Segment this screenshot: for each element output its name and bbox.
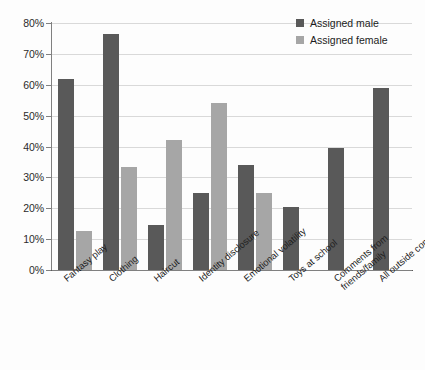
bar <box>76 231 92 270</box>
bar <box>148 225 164 270</box>
legend-item[interactable]: Assigned female <box>296 33 388 46</box>
y-tick-mark <box>46 208 51 209</box>
bar <box>373 88 389 270</box>
legend-item[interactable]: Assigned male <box>296 16 388 29</box>
bar <box>256 193 272 270</box>
y-axis-tick-label: 50% <box>4 111 44 122</box>
y-axis-tick-label: 40% <box>4 142 44 153</box>
y-axis-tick-label: 80% <box>4 18 44 29</box>
bar <box>283 207 299 270</box>
bar <box>58 79 74 270</box>
y-axis-tick-label: 70% <box>4 49 44 60</box>
y-axis-tick-label: 30% <box>4 172 44 183</box>
bar <box>328 148 344 270</box>
bar <box>193 193 209 270</box>
y-axis-tick-label: 60% <box>4 80 44 91</box>
legend-label: Assigned female <box>310 34 388 46</box>
legend-swatch-icon <box>296 19 304 27</box>
legend-swatch-icon <box>296 36 304 44</box>
bar <box>103 34 119 270</box>
y-tick-mark <box>46 23 51 24</box>
legend-label: Assigned male <box>310 17 379 29</box>
y-axis-tick-label: 20% <box>4 203 44 214</box>
y-tick-mark <box>46 177 51 178</box>
y-axis-tick-label: 0% <box>4 265 44 276</box>
y-tick-mark <box>46 54 51 55</box>
bar <box>211 103 227 270</box>
y-tick-mark <box>46 116 51 117</box>
y-tick-mark <box>46 239 51 240</box>
bar <box>166 140 182 270</box>
y-tick-mark <box>46 147 51 148</box>
bar <box>121 167 137 270</box>
y-tick-mark <box>46 270 51 271</box>
bar <box>238 165 254 270</box>
bar-chart: 0%10%20%30%40%50%60%70%80% Fantasy playC… <box>0 0 425 370</box>
plot-area <box>52 23 412 270</box>
y-axis-tick-label: 10% <box>4 234 44 245</box>
chart-legend: Assigned maleAssigned female <box>296 16 388 50</box>
y-tick-mark <box>46 85 51 86</box>
gridline-0 <box>52 270 412 271</box>
